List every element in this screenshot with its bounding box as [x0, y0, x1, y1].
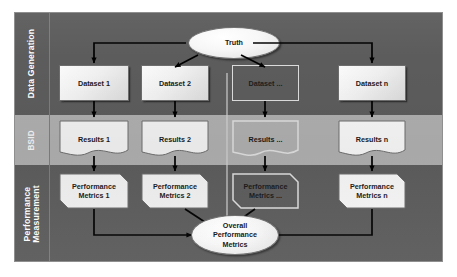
node-truth[interactable]: Truth — [188, 27, 280, 59]
node-dataset-n[interactable]: Dataset n — [338, 65, 406, 101]
node-overall-performance-metrics[interactable]: Overall Performance Metrics — [191, 215, 279, 255]
band-label-bsid: BSID — [15, 115, 49, 165]
band-label-performance-measurement: Performance Measurement — [15, 165, 49, 262]
node-results-2[interactable]: Results 2 — [141, 120, 209, 158]
node-performance-metrics-1[interactable]: Performance Metrics 1 — [59, 173, 129, 209]
diagram-frame: Data Generation BSID Performance Measure… — [14, 12, 443, 262]
node-performance-metrics-ellipsis[interactable]: Performance Metrics ... — [232, 173, 299, 209]
node-results-n[interactable]: Results n — [338, 120, 406, 158]
node-results-1[interactable]: Results 1 — [59, 120, 129, 158]
band-label-divider — [49, 13, 50, 261]
node-dataset-ellipsis[interactable]: Dataset ... — [232, 65, 299, 101]
node-performance-metrics-n[interactable]: Performance Metrics n — [338, 173, 406, 209]
band-label-data-generation: Data Generation — [15, 13, 49, 115]
node-dataset-1[interactable]: Dataset 1 — [59, 65, 129, 101]
diagram-canvas: Data Generation BSID Performance Measure… — [0, 0, 457, 277]
node-results-ellipsis[interactable]: Results ... — [232, 120, 299, 158]
node-performance-metrics-2[interactable]: Performance Metrics 2 — [141, 173, 209, 209]
node-dataset-2[interactable]: Dataset 2 — [141, 65, 209, 101]
